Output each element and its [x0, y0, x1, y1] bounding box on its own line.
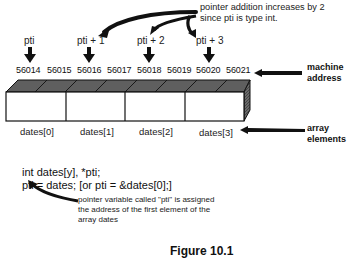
- down-arrow-pti1: [83, 47, 95, 63]
- pointer-assignment-note: pointer variable called "pti" is assigne…: [78, 195, 214, 225]
- machine-address-line-1: machine: [307, 62, 344, 73]
- element-label-2: dates[2]: [139, 126, 173, 137]
- arrow-machine-address: [254, 69, 302, 77]
- machine-address-label: machine address: [307, 62, 344, 84]
- pointer-label-pti-plus-3: pti + 3: [196, 35, 224, 46]
- address-56016: 56016: [77, 65, 102, 75]
- address-56014: 56014: [16, 65, 41, 75]
- array-elements-line-1: array: [307, 123, 346, 134]
- note-bottom-line-2: the address of the first element of the: [78, 205, 214, 215]
- code-line-1: int dates[y], *pti;: [22, 166, 172, 179]
- element-label-0: dates[0]: [20, 126, 54, 137]
- array-elements-line-2: elements: [307, 134, 346, 145]
- down-arrow-pti: [24, 47, 36, 63]
- address-56019: 56019: [167, 65, 192, 75]
- address-56017: 56017: [107, 65, 132, 75]
- down-arrow-pti2: [143, 47, 155, 63]
- address-56018: 56018: [137, 65, 162, 75]
- pointer-label-pti: pti: [24, 35, 35, 46]
- array-box: [6, 80, 250, 121]
- code-block: int dates[y], *pti; pti = dates; [or pti…: [22, 166, 172, 192]
- element-label-1: dates[1]: [80, 126, 114, 137]
- arrow-array-elements: [240, 126, 305, 134]
- pointer-label-pti-plus-2: pti + 2: [137, 35, 165, 46]
- note-bottom-line-3: array dates: [78, 215, 214, 225]
- address-56015: 56015: [47, 65, 72, 75]
- curved-arrow-to-pti3: [188, 16, 196, 38]
- pointer-label-pti-plus-1: pti + 1: [77, 35, 105, 46]
- element-label-3: dates[3]: [199, 127, 233, 138]
- figure-caption: Figure 10.1: [170, 244, 233, 258]
- array-elements-label: array elements: [307, 123, 346, 145]
- note-line-2: since pti is type int.: [200, 13, 325, 24]
- note-line-1: pointer addition increases by 2: [200, 2, 325, 13]
- address-56020: 56020: [196, 65, 221, 75]
- note-bottom-line-1: pointer variable called "pti" is assigne…: [78, 195, 214, 205]
- down-arrow-pti3: [203, 47, 215, 63]
- pointer-addition-note: pointer addition increases by 2 since pt…: [200, 2, 325, 24]
- code-line-2: pti = dates; [or pti = &dates[0];]: [22, 179, 172, 192]
- address-56021: 56021: [226, 65, 251, 75]
- machine-address-line-2: address: [307, 73, 344, 84]
